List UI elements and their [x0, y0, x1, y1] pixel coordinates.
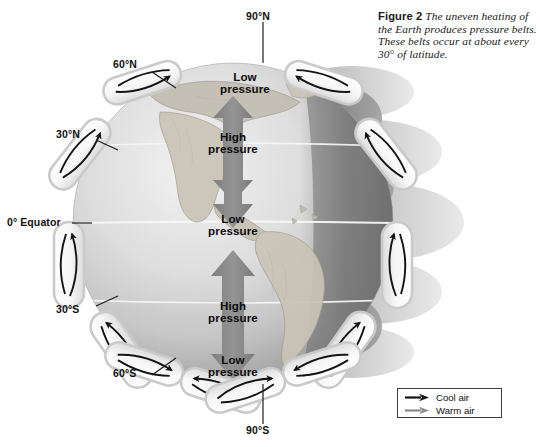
legend: Cool air Warm air: [397, 388, 502, 418]
lat-label-30s: 30°S: [56, 303, 79, 315]
legend-label-cool-air: Cool air: [436, 392, 469, 403]
arrow-right-icon: [404, 406, 430, 415]
legend-item-cool-air: Cool air: [398, 391, 501, 404]
pressure-label-line2: pressure: [208, 224, 258, 237]
lat-label-30n: 30°N: [56, 128, 80, 140]
legend-label-warm-air: Warm air: [436, 405, 475, 416]
pressure-label-polar-n: Low pressure: [200, 71, 290, 96]
pressure-label-line2: pressure: [208, 311, 258, 324]
pressure-label-line2: pressure: [208, 142, 258, 155]
cell-subtropical-n-left: [54, 222, 84, 308]
pressure-label-line1: High: [220, 299, 246, 312]
pressure-label-line2: pressure: [208, 365, 258, 378]
cell-subtropical-n-right: [382, 222, 412, 308]
legend-item-warm-air: Warm air: [398, 404, 501, 417]
figure-container: Figure 2 The uneven heating of the Earth…: [0, 0, 540, 447]
lat-label-90s: 90°S: [246, 424, 269, 436]
pressure-label-line1: Low: [233, 70, 256, 83]
lat-label-60n: 60°N: [113, 58, 137, 70]
pressure-label-line2: pressure: [220, 82, 270, 95]
lat-label-equator: 0° Equator: [7, 216, 61, 228]
figure-caption: Figure 2 The uneven heating of the Earth…: [378, 10, 538, 60]
pressure-label-equator: Low pressure: [188, 213, 278, 238]
pressure-label-polar-s: Low pressure: [188, 354, 278, 379]
pressure-label-line1: High: [220, 130, 246, 143]
figure-label: Figure 2: [378, 10, 422, 22]
pressure-label-subtrop-n: High pressure: [188, 131, 278, 156]
arrow-right-icon: [404, 393, 430, 402]
pressure-label-line1: Low: [221, 353, 244, 366]
lat-label-60s: 60°S: [113, 367, 136, 379]
pressure-label-subtrop-s: High pressure: [188, 300, 278, 325]
lat-label-90n: 90°N: [246, 10, 270, 22]
pressure-label-line1: Low: [221, 212, 244, 225]
